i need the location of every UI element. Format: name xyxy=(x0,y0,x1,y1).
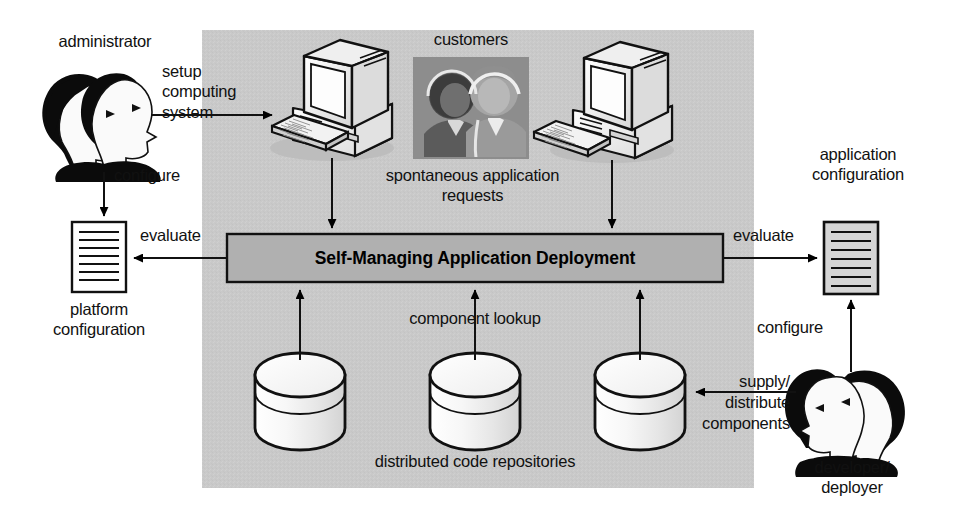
customers-photo xyxy=(414,58,528,158)
label-supply-line3: components xyxy=(668,414,790,433)
label-platform-configuration-line1: platform xyxy=(24,300,174,319)
label-evaluate-left: evaluate xyxy=(140,226,201,245)
label-distributed-code-repositories: distributed code repositories xyxy=(310,452,640,471)
code-repository-2 xyxy=(430,353,520,450)
label-customers: customers xyxy=(396,30,546,49)
label-platform-configuration-line2: configuration xyxy=(24,320,174,339)
label-application-configuration-line1: application xyxy=(778,145,938,164)
label-requests-line2: requests xyxy=(350,186,595,205)
label-setup-line1: setup xyxy=(162,62,201,81)
label-developer-line1: developer/ xyxy=(772,458,932,477)
label-component-lookup: component lookup xyxy=(360,309,590,328)
label-configure-right: configure xyxy=(757,318,823,337)
code-repository-3 xyxy=(595,353,685,450)
diagram-canvas: administrator setup computing system con… xyxy=(0,0,955,513)
application-configuration-doc xyxy=(824,222,878,294)
label-setup-line2: computing xyxy=(162,82,236,101)
platform-configuration-doc xyxy=(72,222,126,292)
label-administrator: administrator xyxy=(20,32,190,51)
label-application-configuration-line2: configuration xyxy=(778,165,938,184)
central-box-label: Self-Managing Application Deployment xyxy=(227,248,723,269)
label-requests-line1: spontaneous application xyxy=(350,166,595,185)
label-evaluate-right: evaluate xyxy=(733,226,794,245)
code-repository-1 xyxy=(255,353,345,450)
label-setup-line3: system xyxy=(162,103,213,122)
label-supply-line1: supply/ xyxy=(678,372,790,391)
label-supply-line2: distribute xyxy=(678,393,790,412)
label-configure-left: configure xyxy=(114,166,180,185)
label-developer-line2: deployer xyxy=(772,478,932,497)
